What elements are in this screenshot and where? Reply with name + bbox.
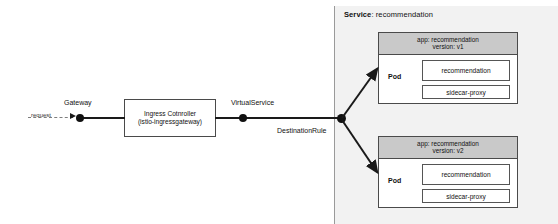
gateway-label: Gateway bbox=[64, 99, 92, 106]
gateway-node-dot[interactable] bbox=[76, 114, 84, 122]
pod-header-v2: app: recommendation version: v2 bbox=[379, 137, 517, 159]
container-sidecar-proxy-v2[interactable]: sidecar-proxy bbox=[422, 189, 510, 203]
pod-header-version-v1: version: v1 bbox=[433, 44, 464, 51]
pod-group-v1[interactable]: app: recommendation version: v1 Pod reco… bbox=[378, 32, 518, 104]
container-sidecar-proxy-v1[interactable]: sidecar-proxy bbox=[422, 85, 510, 99]
service-label: Service: recommendation bbox=[344, 10, 433, 19]
pod-label-v1: Pod bbox=[388, 73, 401, 80]
pod-label-v2: Pod bbox=[388, 177, 401, 184]
virtualservice-label: VirtualService bbox=[231, 99, 274, 106]
pod-group-v2[interactable]: app: recommendation version: v2 Pod reco… bbox=[378, 136, 518, 208]
container-recommendation-v1[interactable]: recommendation bbox=[422, 60, 510, 81]
service-label-key: Service bbox=[344, 10, 371, 19]
edge-ingress-to-junction bbox=[215, 117, 342, 119]
pod-body-v2: Pod recommendation sidecar-proxy bbox=[379, 159, 517, 208]
pod-header-v1: app: recommendation version: v1 bbox=[379, 33, 517, 55]
edge-gateway-to-ingress bbox=[79, 117, 125, 119]
pod-header-version-v2: version: v2 bbox=[433, 148, 464, 155]
container-recommendation-v2[interactable]: recommendation bbox=[422, 164, 510, 185]
ingress-controller-title: Ingress Cotnroller bbox=[144, 110, 196, 118]
virtualservice-node-dot[interactable] bbox=[239, 114, 247, 122]
destinationrule-label: DestinationRule bbox=[277, 127, 326, 134]
diagram-canvas: Service: recommendation app: recommendat… bbox=[0, 0, 558, 224]
destinationrule-junction-dot[interactable] bbox=[337, 114, 346, 123]
ingress-controller-box[interactable]: Ingress Cotnroller (istio-ingressgateway… bbox=[124, 99, 216, 137]
request-label: request bbox=[31, 112, 51, 118]
pod-body-v1: Pod recommendation sidecar-proxy bbox=[379, 55, 517, 104]
service-label-value: recommendation bbox=[376, 10, 433, 19]
ingress-controller-subtitle: (istio-ingressgateway) bbox=[138, 118, 202, 126]
